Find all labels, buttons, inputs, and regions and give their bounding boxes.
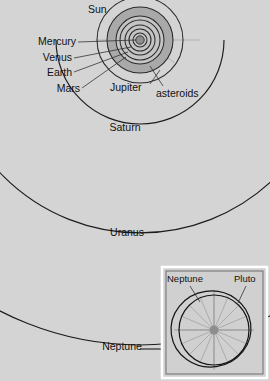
label-asteroids: asteroids [156, 87, 199, 99]
inset-panel: Neptune Pluto [162, 267, 267, 378]
label-sun: Sun [88, 3, 107, 15]
solar-system-canvas: Sun Mercury Venus Earth Mars Jupiter ast… [0, 0, 270, 381]
inset-background [162, 267, 267, 378]
inset-label-neptune: Neptune [167, 273, 203, 284]
inset-label-pluto: Pluto [234, 273, 256, 284]
label-mercury: Mercury [38, 35, 77, 47]
label-mars: Mars [57, 82, 80, 94]
label-jupiter: Jupiter [110, 81, 142, 93]
label-uranus: Uranus [110, 226, 144, 238]
label-earth: Earth [47, 66, 72, 78]
inset-sun-marker [210, 326, 219, 335]
label-neptune: Neptune [102, 340, 142, 352]
solar-system-figure: Sun Mercury Venus Earth Mars Jupiter ast… [0, 0, 270, 381]
sun-marker [136, 36, 144, 44]
label-saturn: Saturn [110, 121, 141, 133]
label-venus: Venus [43, 51, 72, 63]
